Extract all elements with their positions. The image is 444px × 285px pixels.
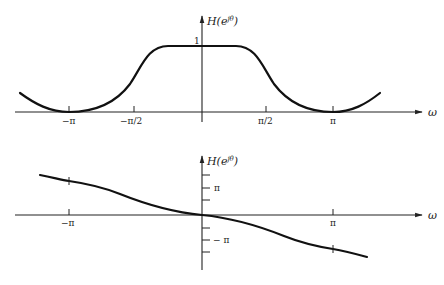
magnitude-plot: −π −π/2 π/2 π ω 1 H(ejθ) bbox=[15, 15, 437, 126]
bottom-y-axis-label: H(ejθ) bbox=[206, 155, 238, 168]
figure-canvas: −π −π/2 π/2 π ω 1 H(ejθ) π − π −π π ω H(… bbox=[0, 0, 444, 285]
bottom-x-axis-label: ω bbox=[428, 209, 437, 222]
phase-plot: π − π −π π ω H(ejθ) bbox=[15, 155, 437, 270]
top-xtick-label: −π/2 bbox=[120, 116, 142, 126]
top-y-tick-label: 1 bbox=[194, 36, 200, 46]
bottom-xtick-label: π bbox=[330, 218, 336, 228]
phase-curve bbox=[40, 175, 367, 257]
magnitude-curve bbox=[20, 46, 380, 112]
bottom-xtick-label: −π bbox=[61, 218, 75, 228]
bottom-ytick-label-pi: π bbox=[214, 183, 220, 193]
top-x-axis-label: ω bbox=[428, 106, 437, 119]
top-xtick-label: −π bbox=[62, 116, 76, 126]
top-xtick-label: π bbox=[330, 116, 336, 126]
bottom-ytick-label-neg-pi: − π bbox=[213, 235, 229, 245]
top-y-axis-label: H(ejθ) bbox=[206, 15, 238, 28]
top-xtick-label: π/2 bbox=[258, 116, 273, 126]
